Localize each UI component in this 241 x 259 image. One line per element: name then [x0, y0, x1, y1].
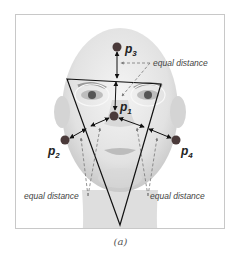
annotation-bottom-left: equal distance — [24, 191, 79, 201]
point-p3 — [113, 43, 122, 52]
point-p4 — [172, 136, 181, 145]
point-p1 — [110, 112, 119, 121]
annotation-bottom-right: equal distance — [150, 191, 205, 201]
face-diagram: p3 p1 p2 p4 equal distance equal distanc… — [0, 0, 241, 259]
figure-caption: (a) — [0, 236, 241, 247]
point-p2 — [61, 136, 70, 145]
label-p2: p2 — [47, 144, 60, 160]
annotation-top: equal distance — [153, 58, 208, 68]
label-p4: p4 — [180, 144, 193, 160]
